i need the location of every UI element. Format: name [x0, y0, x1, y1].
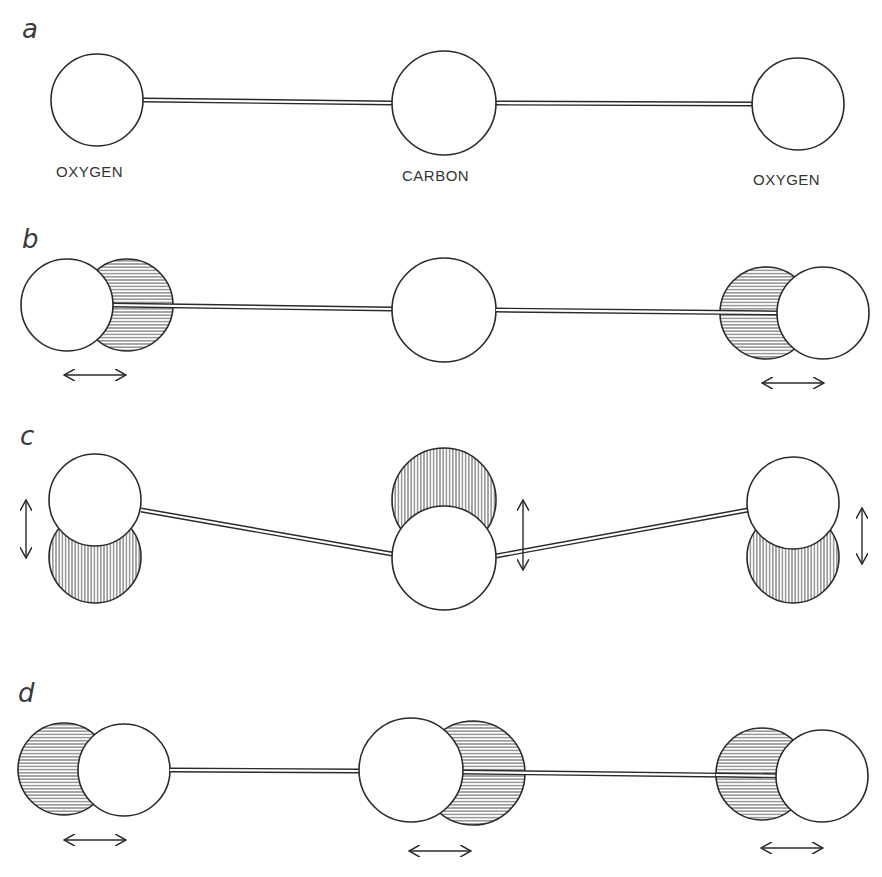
- oxygen-atom-left: [51, 54, 143, 146]
- oxygen-atom-left: [21, 259, 113, 351]
- carbon-atom: [392, 258, 496, 362]
- panel-b: b: [21, 224, 869, 383]
- co2-vibration-diagram: a OXYGEN CARBON OXYGEN b: [0, 0, 882, 877]
- bond-c-left: [141, 510, 392, 554]
- panel-a: a OXYGEN CARBON OXYGEN: [22, 14, 844, 188]
- oxygen-atom-right: [777, 267, 869, 359]
- bond-b-right: [496, 310, 780, 313]
- oxygen-atom-left: [49, 454, 141, 546]
- label-carbon: CARBON: [402, 167, 469, 184]
- panel-letter-a: a: [22, 14, 38, 44]
- oxygen-atom-left: [78, 724, 170, 816]
- oxygen-atom-right: [776, 730, 868, 822]
- panel-letter-d: d: [18, 678, 35, 708]
- carbon-atom: [392, 51, 496, 155]
- panel-letter-b: b: [22, 224, 39, 254]
- bond-a-left: [143, 100, 392, 103]
- oxygen-atom-right: [752, 58, 844, 150]
- label-oxygen-right: OXYGEN: [753, 171, 820, 188]
- label-oxygen-left: OXYGEN: [56, 163, 123, 180]
- bond-a-right: [496, 103, 752, 104]
- carbon-atom: [392, 506, 496, 610]
- bond-d-left: [170, 770, 360, 771]
- oxygen-atom-right: [747, 457, 839, 549]
- panel-letter-c: c: [20, 421, 34, 451]
- carbon-atom: [359, 718, 463, 822]
- panel-d: d: [18, 678, 868, 851]
- panel-c: c: [20, 421, 862, 610]
- bond-c-right: [496, 510, 748, 556]
